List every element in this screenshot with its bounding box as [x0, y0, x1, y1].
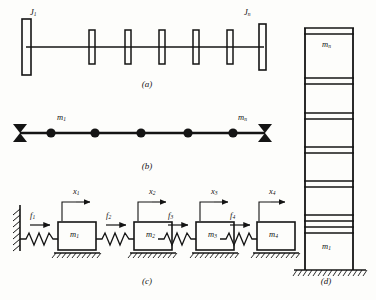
- support-left-lower: [13, 133, 27, 142]
- caption-c: (c): [127, 276, 167, 286]
- figure-root: J1 Jn (a) m1 mn (b): [0, 0, 376, 300]
- ground-support-3: [190, 253, 239, 258]
- support-right-lower: [258, 133, 272, 142]
- label-mass-1: m1: [70, 230, 79, 240]
- panel-c-svg: [0, 183, 290, 273]
- panel-d-svg: [292, 20, 376, 282]
- caption-a: (a): [127, 79, 167, 89]
- spring-1: [20, 233, 58, 245]
- panel-c-spring-mass-chain: m1 m2 m3 m4 f1 f2 f3 f4 x1 x2: [0, 183, 290, 273]
- spring-4: [220, 233, 257, 245]
- floor-slab-3: [304, 181, 354, 187]
- label-displacement-4: x4: [269, 187, 276, 197]
- label-force-4: f4: [230, 211, 235, 221]
- label-force-3: f3: [168, 211, 173, 221]
- label-force-1: f1: [30, 211, 35, 221]
- floor-slab-6: [304, 78, 354, 84]
- label-m1-beam: m1: [57, 113, 66, 123]
- displacement-bracket-1: [62, 202, 90, 221]
- ground-support-2: [128, 253, 177, 258]
- mass-node-1: [46, 128, 55, 137]
- label-mn-building: mn: [322, 40, 331, 50]
- panel-d-shear-building: mn m1: [292, 20, 376, 282]
- spring-3: [158, 233, 196, 245]
- mass-node-5: [228, 128, 237, 137]
- support-left-upper: [13, 124, 27, 133]
- label-mass-4: m4: [269, 230, 278, 240]
- caption-d: (d): [306, 276, 346, 286]
- label-j1: J1: [30, 8, 37, 18]
- label-mn-beam: mn: [238, 113, 247, 123]
- label-mass-3: m3: [208, 230, 217, 240]
- floor-slab-4: [304, 147, 354, 153]
- floor-slab-7: [304, 28, 354, 34]
- panel-b-svg: [0, 100, 290, 160]
- wall-hatching: [13, 209, 20, 251]
- displacement-bracket-3: [200, 202, 228, 221]
- floor-slab-1: [304, 227, 354, 233]
- mass-node-2: [90, 128, 99, 137]
- panel-b-beam-masses: m1 mn: [0, 100, 290, 160]
- label-mass-2: m2: [146, 230, 155, 240]
- spring-2: [96, 233, 134, 245]
- label-jn: Jn: [244, 8, 251, 18]
- floor-slab-5: [304, 113, 354, 119]
- mass-node-3: [136, 128, 145, 137]
- label-m1-building: m1: [322, 242, 331, 252]
- label-displacement-2: x2: [149, 187, 156, 197]
- label-force-2: f2: [106, 211, 111, 221]
- caption-b: (b): [127, 161, 167, 171]
- ground-support-1: [52, 253, 101, 258]
- floor-slab-2: [304, 215, 354, 221]
- mass-node-4: [183, 128, 192, 137]
- displacement-bracket-4: [259, 202, 285, 221]
- label-displacement-3: x3: [211, 187, 218, 197]
- support-right-upper: [258, 124, 272, 133]
- label-displacement-1: x1: [73, 187, 80, 197]
- displacement-bracket-2: [138, 202, 166, 221]
